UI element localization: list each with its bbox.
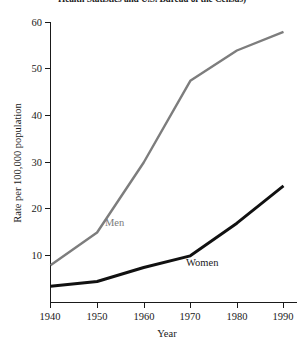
y-tick-marks: [45, 23, 51, 256]
y-tick-label: 30: [32, 157, 43, 168]
x-tick-label: 1970: [180, 311, 201, 322]
x-tick-label: 1990: [273, 311, 294, 322]
figure-container: Health Statistics and U.S. Bureau of the…: [0, 0, 304, 346]
series-line-men: [51, 32, 284, 265]
y-tick-label: 20: [32, 203, 43, 214]
y-tick-label: 60: [32, 17, 43, 28]
series-line-women: [51, 186, 284, 286]
x-tick-marks: [51, 303, 284, 309]
series-label-men: Men: [105, 217, 125, 228]
y-tick-label: 40: [32, 110, 43, 121]
x-axis-title: Year: [157, 328, 177, 339]
x-tick-label: 1980: [227, 311, 248, 322]
y-tick-label: 50: [32, 63, 43, 74]
line-chart-plot: 10 20 30 40 50 60 1940 1950 1960 1970 19…: [0, 0, 304, 346]
y-tick-labels: 10 20 30 40 50 60: [32, 17, 43, 261]
x-tick-label: 1950: [87, 311, 108, 322]
x-tick-label: 1960: [134, 311, 155, 322]
series-label-women: Women: [186, 257, 219, 268]
y-axis-title: Rate per 100,000 population: [12, 102, 23, 222]
x-tick-label: 1940: [40, 311, 61, 322]
y-tick-label: 10: [32, 250, 43, 261]
x-tick-labels: 1940 1950 1960 1970 1980 1990: [40, 311, 294, 322]
